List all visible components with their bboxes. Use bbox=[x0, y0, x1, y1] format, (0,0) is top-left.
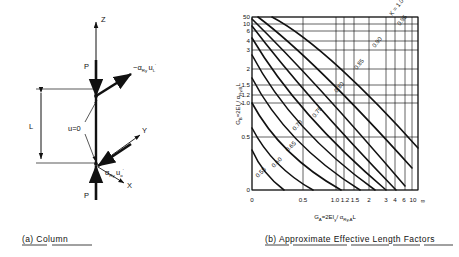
x-axis-title-sub-rya: Ry,A bbox=[343, 217, 352, 222]
moment-arrow-bottom bbox=[98, 144, 131, 166]
y-axis-title: GB=2EIy/ αRy,BL bbox=[235, 83, 243, 125]
y-tick-10: 10 bbox=[243, 20, 250, 27]
figure-container: Z P P L −αRyuL' αRyuo' Y X bbox=[0, 0, 459, 257]
y-tick-labels: 0 0.5 1.0 1.2 1.5 2 3 4 6 10 50 bbox=[241, 13, 250, 193]
y-axis-title-eq: =2EI bbox=[235, 104, 241, 117]
curve-k-0.55 bbox=[252, 150, 284, 190]
axis-y-label: Y bbox=[142, 126, 147, 135]
curve-label-0.85: 0.85 bbox=[353, 57, 365, 70]
x-tick-0.5: 0.5 bbox=[299, 196, 308, 203]
axis-y-line bbox=[112, 135, 140, 155]
moment-bottom-prime: ' bbox=[123, 168, 124, 173]
length-label: L bbox=[29, 122, 33, 131]
x-axis-title-eq: =2EI bbox=[322, 214, 335, 220]
caption-panel-b: (b) Approximate Effective Length Factors bbox=[265, 234, 435, 244]
x-tick-inf: ∞ bbox=[421, 197, 425, 204]
y-tick-1.5: 1.5 bbox=[241, 81, 250, 88]
x-tick-0: 0 bbox=[250, 196, 254, 203]
curve-label-0.95: 0.95 bbox=[396, 13, 408, 26]
x-axis-title: GA=2EIy/ αRy,AL bbox=[314, 214, 356, 222]
moment-top-subscript: Ry bbox=[142, 68, 148, 73]
y-tick-4: 4 bbox=[247, 37, 251, 44]
curve-k-0.75 bbox=[252, 55, 375, 190]
x-tick-labels: 0 0.5 1.0 1.2 1.5 2 3 4 6 10 ∞ bbox=[250, 196, 425, 204]
panel-b-nomograph: 0.55 0.60 0.65 0.70 0.75 0.80 0.85 0.90 … bbox=[235, 0, 453, 245]
curve-label-0.80: 0.80 bbox=[333, 80, 345, 93]
moment-top-prime: ' bbox=[155, 63, 156, 68]
figure-svg: Z P P L −αRyuL' αRyuo' Y X bbox=[0, 0, 459, 257]
y-tick-6: 6 bbox=[247, 27, 251, 34]
moment-label-top: −αRyuL' bbox=[133, 63, 156, 73]
x-tick-4: 4 bbox=[393, 196, 397, 203]
curve-label-group: 0.55 0.60 0.65 0.70 0.75 0.80 0.85 0.90 … bbox=[254, 0, 408, 179]
load-label-bottom: P bbox=[84, 191, 89, 200]
leader-line-bottom bbox=[85, 134, 95, 160]
x-tick-1.0: 1.0 bbox=[331, 196, 340, 203]
x-tick-6: 6 bbox=[402, 196, 406, 203]
y-axis-title-sub-ryb: Ry,B bbox=[238, 86, 243, 95]
axis-x-label: X bbox=[127, 181, 132, 190]
y-tick-50: 50 bbox=[243, 13, 250, 20]
y-tick-1.0: 1.0 bbox=[241, 99, 250, 106]
moment-top-variable-subscript: L bbox=[153, 68, 156, 73]
y-tick-0: 0 bbox=[247, 186, 251, 193]
curve-label-0.75: 0.75 bbox=[311, 105, 323, 118]
displacement-label: u=0 bbox=[68, 124, 81, 133]
caption-panel-a: (a) Column bbox=[22, 234, 68, 244]
y-tick-1.2: 1.2 bbox=[241, 91, 250, 98]
y-tick-0.5: 0.5 bbox=[241, 133, 250, 140]
panel-a-column-diagram: Z P P L −αRyuL' αRyuo' Y X bbox=[22, 15, 156, 245]
x-tick-1.5: 1.5 bbox=[351, 196, 360, 203]
y-axis-title-tail: L bbox=[235, 83, 241, 87]
x-axis-title-tail: L bbox=[353, 214, 357, 220]
x-tick-10: 10 bbox=[410, 196, 417, 203]
load-label-top: P bbox=[84, 62, 89, 71]
y-tick-3: 3 bbox=[247, 46, 251, 53]
y-tick-2: 2 bbox=[247, 65, 251, 72]
moment-arrow-top bbox=[96, 74, 131, 96]
axis-z-label: Z bbox=[101, 15, 106, 24]
x-tick-2: 2 bbox=[367, 196, 371, 203]
x-tick-1.2: 1.2 bbox=[341, 196, 350, 203]
curve-label-0.90: 0.90 bbox=[371, 35, 383, 48]
x-tick-3: 3 bbox=[384, 196, 388, 203]
moment-bottom-variable-subscript: o bbox=[120, 173, 123, 178]
curve-label-0.65: 0.65 bbox=[284, 140, 297, 153]
